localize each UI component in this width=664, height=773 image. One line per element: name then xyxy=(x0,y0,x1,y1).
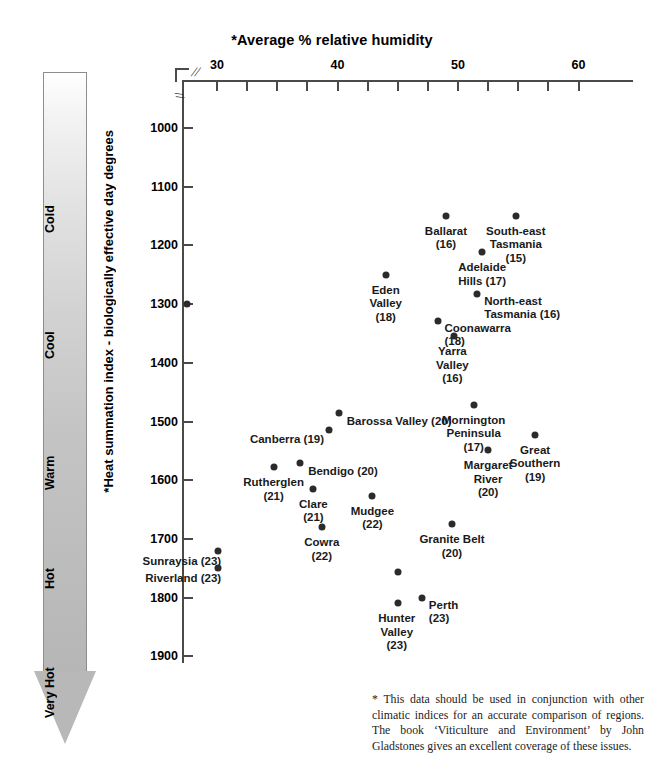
temperature-band-very-hot: Very Hot xyxy=(43,638,87,748)
data-point-granite-belt[interactable] xyxy=(448,521,455,528)
data-point-sunraysia[interactable] xyxy=(215,547,222,554)
data-point-riverland[interactable] xyxy=(215,565,222,572)
data-point-cowra[interactable] xyxy=(318,524,325,531)
y-axis-break-icon: // xyxy=(171,90,187,101)
data-point-barossa-valley[interactable] xyxy=(335,409,342,416)
data-point-label: South-east Tasmania (15) xyxy=(486,225,545,265)
data-point-label: Rutherglen (21) xyxy=(243,476,304,503)
chart-title: *Average % relative humidity xyxy=(0,32,664,48)
y-axis-tick xyxy=(184,127,193,129)
y-axis-tick xyxy=(184,186,193,188)
y-axis-tick-label: 1600 xyxy=(130,473,178,487)
y-axis-tick xyxy=(184,538,193,540)
data-point-label: Perth (23) xyxy=(429,599,458,626)
data-point-label: Cowra (22) xyxy=(304,536,339,563)
data-point-label: Margaret River (20) xyxy=(464,459,513,499)
chart-canvas: *Average % relative humidity ColdCoolWar… xyxy=(0,0,664,773)
data-point-ballarat[interactable] xyxy=(442,213,449,220)
x-axis-tick xyxy=(246,82,248,91)
y-axis-tick-label: 1100 xyxy=(130,180,178,194)
x-axis-tick xyxy=(276,82,278,91)
data-point-label: Mornington Peninsula (17) xyxy=(442,414,505,454)
data-point-label: Bendigo (20) xyxy=(308,465,378,478)
data-point-label: North-east Tasmania (16) xyxy=(484,295,560,322)
data-point-label: Hunter Valley (23) xyxy=(378,612,415,652)
data-point-south-east-tasmania[interactable] xyxy=(512,213,519,220)
temperature-band-warm: Warm xyxy=(43,418,87,528)
y-axis-tick-label: 1300 xyxy=(130,297,178,311)
y-axis-tick-label: 1400 xyxy=(130,356,178,370)
data-point-canberra[interactable] xyxy=(326,427,333,434)
data-point-unlabelled-1755[interactable] xyxy=(394,569,401,576)
data-point-hunter-valley[interactable] xyxy=(394,600,401,607)
data-point-label: Eden Valley (18) xyxy=(369,284,402,324)
temperature-band-label: Warm xyxy=(43,456,57,490)
data-point-coonawarra[interactable] xyxy=(434,317,441,324)
temperature-band-cold: Cold xyxy=(43,164,87,274)
x-axis-tick xyxy=(487,82,489,91)
temperature-band-hot: Hot xyxy=(43,534,87,624)
x-axis-break-icon: // xyxy=(190,64,201,80)
data-point-label: Sunraysia (23) xyxy=(143,555,222,568)
y-axis-tick xyxy=(184,362,193,364)
temperature-band-label: Cool xyxy=(43,331,57,359)
x-axis-tick xyxy=(337,82,339,91)
data-point-label: Canberra (19) xyxy=(250,433,324,446)
x-axis-tick-label: 30 xyxy=(210,58,224,72)
data-point-label: Barossa Valley (20) xyxy=(347,415,452,428)
x-axis-tick-label: 60 xyxy=(572,58,586,72)
data-point-margaret-river[interactable] xyxy=(485,447,492,454)
x-axis-line xyxy=(183,80,633,82)
data-point-label: Ballarat (16) xyxy=(425,225,467,252)
x-axis-tick xyxy=(547,82,549,91)
y-axis-tick-label: 1900 xyxy=(130,649,178,663)
data-point-label: Granite Belt (20) xyxy=(419,533,484,560)
x-axis-tick xyxy=(397,82,399,91)
data-point-label: Great Southern (19) xyxy=(510,444,560,484)
y-axis-tick-label: 1500 xyxy=(130,415,178,429)
data-point-rutherglen[interactable] xyxy=(270,464,277,471)
data-point-north-east-tasmania[interactable] xyxy=(474,290,481,297)
x-axis-tick-label: 50 xyxy=(451,58,465,72)
x-axis-tick xyxy=(457,82,459,91)
x-axis-tick xyxy=(216,82,218,91)
temperature-band-cool: Cool xyxy=(43,290,87,400)
data-point-eden-valley[interactable] xyxy=(382,271,389,278)
x-axis-tick xyxy=(517,82,519,91)
data-point-adelaide-hills[interactable] xyxy=(479,249,486,256)
x-axis-tick xyxy=(427,82,429,91)
data-point-unlabelled-1300[interactable] xyxy=(183,301,190,308)
x-axis-tick-label: 40 xyxy=(331,58,345,72)
data-point-label: Yarra Valley (16) xyxy=(436,345,469,385)
data-point-great-southern[interactable] xyxy=(532,432,539,439)
y-axis-tick-label: 1200 xyxy=(130,238,178,252)
data-point-label: Clare (21) xyxy=(299,498,328,525)
y-axis-tick xyxy=(184,597,193,599)
y-axis-tick xyxy=(184,244,193,246)
data-point-label: Riverland (23) xyxy=(145,572,221,585)
data-point-bendigo[interactable] xyxy=(297,459,304,466)
data-point-yarra-valley[interactable] xyxy=(451,333,458,340)
y-axis-tick-label: 1700 xyxy=(130,532,178,546)
data-point-label: Adelaide Hills (17) xyxy=(458,261,506,288)
y-axis-title: *Heat summation index - biologically eff… xyxy=(101,130,116,493)
temperature-gradient-arrow: ColdCoolWarmHotVery Hot xyxy=(34,72,96,744)
footnote-text: * This data should be used in conjunctio… xyxy=(372,692,644,754)
y-axis-tick-label: 1000 xyxy=(130,121,178,135)
axis-break-corner-icon xyxy=(175,68,189,82)
data-point-mudgee[interactable] xyxy=(369,493,376,500)
temperature-band-label: Very Hot xyxy=(43,668,57,719)
y-axis-tick-label: 1800 xyxy=(130,591,178,605)
data-point-label: Mudgee (22) xyxy=(351,505,394,532)
y-axis-tick xyxy=(184,479,193,481)
y-axis-tick xyxy=(184,655,193,657)
temperature-band-label: Hot xyxy=(43,569,57,590)
temperature-band-label: Cold xyxy=(43,205,57,233)
data-point-clare[interactable] xyxy=(310,486,317,493)
x-axis-tick xyxy=(578,82,580,91)
data-point-mornington-peninsula[interactable] xyxy=(470,402,477,409)
x-axis-tick xyxy=(306,82,308,91)
data-point-perth[interactable] xyxy=(418,594,425,601)
x-axis-tick xyxy=(367,82,369,91)
y-axis-tick xyxy=(184,421,193,423)
